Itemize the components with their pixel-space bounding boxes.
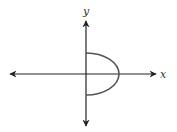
graph: x y [0,0,177,132]
x-axis-label: x [160,68,167,81]
y-axis-label: y [82,5,90,18]
